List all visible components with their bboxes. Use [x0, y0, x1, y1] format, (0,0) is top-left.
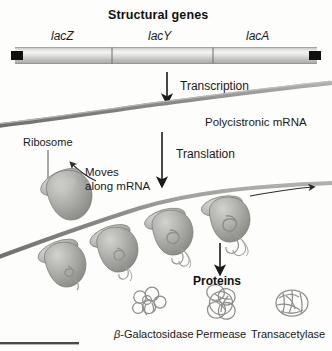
transcription-label: Transcription [180, 80, 249, 92]
ribosome-on-mrna-2 [87, 220, 141, 281]
structural-genes-bar [11, 47, 321, 64]
moves-label-line2: along mRNA [85, 180, 150, 193]
moves-label-line1: Moves [85, 166, 119, 179]
lac-operon-diagram: Structural genes lacZ lacY lacA [0, 0, 332, 351]
protein-name-galactosidase: β-Galactosidase [114, 329, 194, 340]
proteins-label: Proteins [193, 275, 241, 287]
protein-name-permease: Permease [196, 329, 246, 340]
protein-name-galactosidase-text: -Galactosidase [120, 328, 193, 340]
protein-name-transacetylase: Transacetylase [251, 329, 325, 340]
ribosome-on-mrna-3 [142, 204, 195, 268]
ribosome-on-mrna-4 [199, 192, 251, 256]
polycistronic-mrna-label: Polycistronic mRNA [205, 117, 307, 129]
protein-shape-galactosidase [133, 287, 166, 315]
bottom-rule [0, 342, 79, 344]
diagram-artwork [0, 0, 332, 351]
protein-shape-transacetylase [276, 290, 308, 316]
translation-label: Translation [176, 148, 235, 160]
protein-shape-permease [207, 285, 235, 320]
ribosome-label: Ribosome [23, 137, 73, 148]
